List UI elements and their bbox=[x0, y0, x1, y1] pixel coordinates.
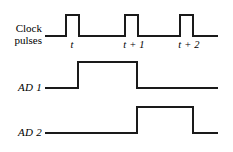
timing-diagram: Clock pulses AD 1 AD 2 t t + 1 t + 2 bbox=[0, 0, 233, 152]
ad1-label: AD 1 bbox=[0, 81, 42, 93]
ad2-waveform bbox=[45, 107, 218, 133]
clock-pulses-label-line2: pulses bbox=[2, 34, 42, 46]
time-tick-t: t bbox=[61, 39, 83, 50]
clock-pulses-label: Clock pulses bbox=[2, 22, 42, 47]
time-tick-t-plus-2: t + 2 bbox=[172, 39, 206, 50]
ad1-waveform bbox=[45, 62, 218, 88]
time-tick-t-plus-1: t + 1 bbox=[117, 39, 151, 50]
clock-pulses-label-line1: Clock bbox=[2, 22, 42, 34]
ad2-label: AD 2 bbox=[0, 126, 42, 138]
clock-pulses-waveform bbox=[45, 15, 218, 36]
